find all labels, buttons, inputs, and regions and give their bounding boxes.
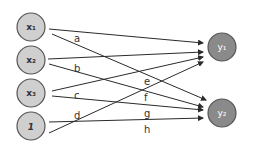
input-node-label: x₂ <box>26 55 36 65</box>
edge-label-b: b <box>74 63 80 74</box>
edge-label-g: g <box>144 108 150 119</box>
input-node-label: x₁ <box>26 22 36 32</box>
edge-x1-y1 <box>49 29 203 43</box>
edge-label-e: e <box>144 76 150 87</box>
network-diagram: a b c d e f g h x₁ x₂ x₃ 1 y₁ y₂ <box>0 0 254 147</box>
edge-bias-y2 <box>49 118 203 122</box>
edge-label-c: c <box>74 90 80 101</box>
output-node-y1: y₁ <box>208 33 236 61</box>
edge-x2-y2 <box>49 64 203 107</box>
edge-label-f: f <box>144 92 148 103</box>
edge-label-a: a <box>74 33 80 44</box>
input-node-x3: x₃ <box>17 79 45 107</box>
input-node-label: x₃ <box>26 88 36 98</box>
output-node-y2: y₂ <box>208 99 236 127</box>
edge-label-d: d <box>74 110 80 121</box>
output-node-label: y₁ <box>218 42 227 52</box>
edge-x2-y1 <box>48 52 203 59</box>
input-node-label: 1 <box>28 122 34 132</box>
edge-label-h: h <box>144 124 150 135</box>
input-node-x1: x₁ <box>17 13 45 41</box>
input-node-bias: 1 <box>17 112 45 140</box>
input-node-x2: x₂ <box>17 46 45 74</box>
output-node-label: y₂ <box>218 108 227 118</box>
